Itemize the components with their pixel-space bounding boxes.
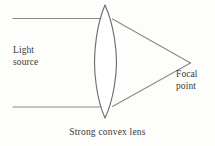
converging-ray-top-line xyxy=(113,19,191,63)
lens-caption: Strong convex lens xyxy=(0,127,215,139)
optics-diagram-figure: Light source Focal point Strong convex l… xyxy=(0,0,215,146)
light-source-label: Light source xyxy=(13,45,38,68)
focal-point-label: Focal point xyxy=(176,69,198,92)
strong-convex-lens-shape xyxy=(95,5,117,118)
focal-point-label-line2: point xyxy=(176,81,198,93)
light-source-label-line1: Light xyxy=(13,45,38,57)
focal-point-label-line1: Focal xyxy=(176,69,198,81)
light-source-label-line2: source xyxy=(13,57,38,69)
